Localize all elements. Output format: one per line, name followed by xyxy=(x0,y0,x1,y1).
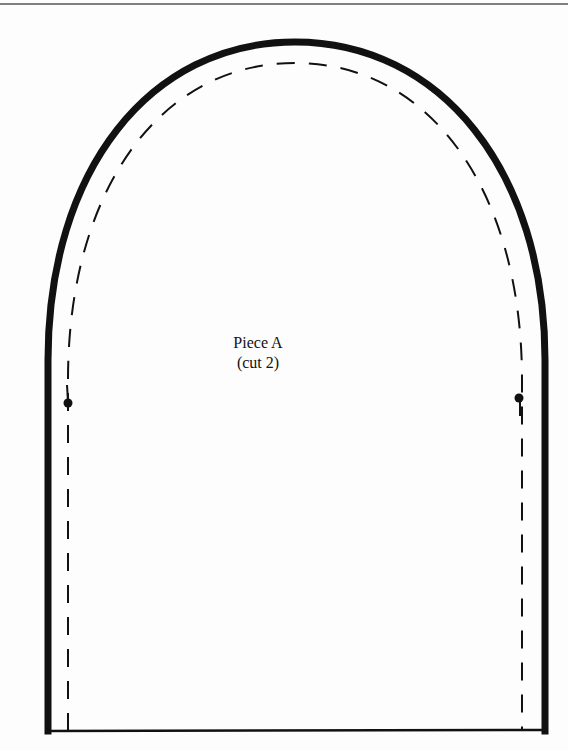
cutting-line-outline xyxy=(48,42,545,731)
seam-line-dashed xyxy=(68,63,522,731)
cut-instruction-label: (cut 2) xyxy=(208,354,308,372)
bottom-edge xyxy=(45,730,548,731)
piece-name-label: Piece A xyxy=(208,334,308,352)
notch-dot-left xyxy=(64,385,73,408)
pattern-page: Piece A (cut 2) xyxy=(0,0,568,751)
pattern-drawing xyxy=(0,0,568,751)
